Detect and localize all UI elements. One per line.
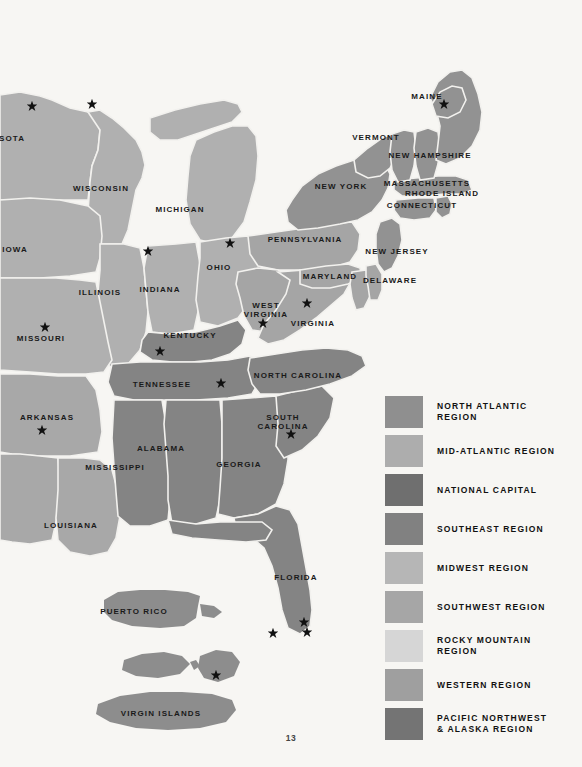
legend-southeast[interactable]: SOUTHEAST REGION: [385, 513, 575, 552]
star-florida-miami-icon: [299, 617, 310, 628]
legend-southwest-swatch: [385, 591, 423, 623]
star-maine-icon: [439, 99, 450, 110]
map-legend: NORTH ATLANTICREGIONMID-ATLANTIC REGIONN…: [385, 396, 575, 747]
legend-rocky-mountain[interactable]: ROCKY MOUNTAINREGION: [385, 630, 575, 669]
map-page: SOTAWISCONSINMICHIGANIOWAOHIOILLINOISIND…: [0, 0, 582, 767]
legend-rocky-mountain-swatch: [385, 630, 423, 662]
legend-midwest-swatch: [385, 552, 423, 584]
legend-mid-atlantic-swatch: [385, 435, 423, 467]
legend-southeast-label: SOUTHEAST REGION: [437, 513, 544, 545]
star-south-carolina-icon: [286, 429, 297, 440]
legend-western[interactable]: WESTERN REGION: [385, 669, 575, 708]
legend-southwest[interactable]: SOUTHWEST REGION: [385, 591, 575, 630]
star-kentucky-icon: [155, 346, 166, 357]
star-florida-south-icon: [302, 627, 313, 638]
star-missouri-icon: [40, 322, 51, 333]
legend-southwest-label: SOUTHWEST REGION: [437, 591, 546, 623]
legend-southeast-swatch: [385, 513, 423, 545]
star-arkansas-icon: [37, 425, 48, 436]
legend-western-swatch: [385, 669, 423, 701]
star-virgin-islands-icon: [211, 670, 222, 681]
legend-north-atlantic[interactable]: NORTH ATLANTICREGION: [385, 396, 575, 435]
legend-national-capital[interactable]: NATIONAL CAPITAL: [385, 474, 575, 513]
star-west-virginia-icon: [258, 318, 269, 329]
star-minnesota-icon: [27, 101, 38, 112]
legend-rocky-mountain-label: ROCKY MOUNTAINREGION: [437, 630, 531, 662]
legend-mid-atlantic[interactable]: MID-ATLANTIC REGION: [385, 435, 575, 474]
star-ohio-icon: [225, 238, 236, 249]
star-tennessee-icon: [216, 378, 227, 389]
legend-western-label: WESTERN REGION: [437, 669, 532, 701]
legend-midwest[interactable]: MIDWEST REGION: [385, 552, 575, 591]
legend-north-atlantic-label: NORTH ATLANTICREGION: [437, 396, 527, 428]
star-upper-midwest-icon: [87, 99, 98, 110]
legend-midwest-label: MIDWEST REGION: [437, 552, 529, 584]
star-illinois-north-icon: [143, 246, 154, 257]
legend-national-capital-label: NATIONAL CAPITAL: [437, 474, 537, 506]
star-florida-keys-icon: [268, 628, 279, 639]
page-number: 13: [0, 733, 582, 743]
legend-north-atlantic-swatch: [385, 396, 423, 428]
legend-mid-atlantic-label: MID-ATLANTIC REGION: [437, 435, 555, 467]
legend-national-capital-swatch: [385, 474, 423, 506]
star-national-capital-icon: [302, 298, 313, 309]
